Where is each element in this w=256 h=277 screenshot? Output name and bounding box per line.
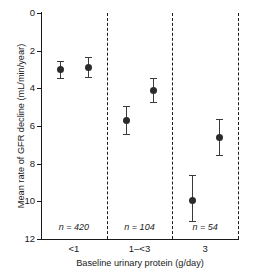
error-bar-cap (57, 78, 64, 79)
error-bar-cap (57, 61, 64, 62)
y-tick-label: 12 (24, 234, 35, 244)
x-tick-label: 1–<3 (129, 243, 150, 254)
y-tick-mark (37, 164, 41, 165)
data-marker (150, 87, 157, 94)
data-marker (189, 197, 196, 204)
data-marker (85, 64, 92, 71)
error-bar-cap (85, 57, 92, 58)
data-marker (123, 117, 130, 124)
y-tick-mark (37, 88, 41, 89)
data-marker (216, 134, 223, 141)
error-bar-cap (85, 77, 92, 78)
error-bar-cap (150, 78, 157, 79)
y-tick-mark (37, 13, 41, 14)
error-bar-cap (189, 175, 196, 176)
error-bar-cap (216, 155, 223, 156)
y-tick-label: 0 (30, 8, 35, 18)
y-tick-label: 8 (30, 159, 35, 169)
y-tick-mark (37, 51, 41, 52)
group-separator (172, 13, 173, 239)
x-tick-label: <1 (68, 243, 79, 254)
error-bar-cap (150, 102, 157, 103)
x-axis-line (41, 239, 239, 240)
y-tick-mark (37, 126, 41, 127)
group-sample-size: n = 54 (193, 222, 218, 232)
x-axis-title: Baseline urinary protein (g/day) (41, 258, 239, 268)
error-bar-cap (123, 134, 130, 135)
group-separator (238, 13, 239, 239)
y-tick-label: 2 (30, 46, 35, 56)
y-tick-mark (37, 239, 41, 240)
y-tick-label: 4 (30, 84, 35, 94)
gfr-decline-chart: Mean rate of GFR decline (mL/min/year) 0… (0, 0, 256, 277)
y-tick-label: 6 (30, 121, 35, 131)
data-marker (57, 66, 64, 73)
x-tick-label: 3 (203, 243, 208, 254)
group-sample-size: n = 420 (59, 222, 89, 232)
error-bar-cap (123, 106, 130, 107)
y-tick-label: 10 (24, 197, 35, 207)
y-tick-mark (37, 201, 41, 202)
plot-area: 024681012 (41, 13, 238, 239)
error-bar-cap (216, 119, 223, 120)
group-sample-size: n = 104 (124, 222, 154, 232)
group-separator (107, 13, 108, 239)
